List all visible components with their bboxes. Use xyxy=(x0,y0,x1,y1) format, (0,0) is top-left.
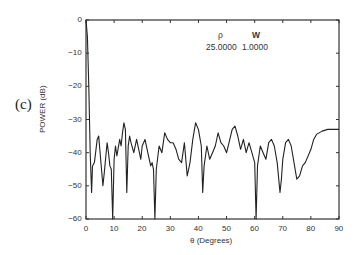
x-tick-label: 90 xyxy=(334,224,343,233)
x-tick-label: 10 xyxy=(110,224,119,233)
x-tick-label: 80 xyxy=(306,224,315,233)
panel-label: (c) xyxy=(15,96,32,113)
legend-header-w: W xyxy=(252,30,260,40)
x-tick-label: 0 xyxy=(84,224,88,233)
y-tick-label: −20 xyxy=(68,81,82,90)
x-axis-label: θ (Degrees) xyxy=(190,236,232,245)
x-tick-label: 50 xyxy=(222,224,231,233)
y-tick-label: −40 xyxy=(68,148,82,157)
y-axis-label: POWER (dB) xyxy=(38,85,47,133)
y-tick-label: −10 xyxy=(68,48,82,57)
x-tick-label: 70 xyxy=(278,224,287,233)
power-pattern-chart xyxy=(0,0,359,255)
legend-value-w: 1.0000 xyxy=(242,42,268,52)
x-tick-label: 20 xyxy=(138,224,147,233)
legend-value-rho: 25.0000 xyxy=(206,42,237,52)
x-tick-label: 60 xyxy=(250,224,259,233)
y-tick-label: −60 xyxy=(68,214,82,223)
x-tick-label: 30 xyxy=(166,224,175,233)
y-tick-label: −50 xyxy=(68,181,82,190)
x-tick-label: 40 xyxy=(194,224,203,233)
y-tick-label: −30 xyxy=(68,115,82,124)
y-tick-label: 0 xyxy=(77,15,81,24)
legend-header-rho: ρ xyxy=(218,30,223,40)
